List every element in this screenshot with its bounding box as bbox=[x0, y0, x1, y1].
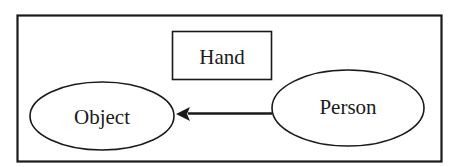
diagram-svg bbox=[0, 0, 456, 167]
object-label: Object bbox=[74, 107, 130, 128]
diagram-canvas: Hand Object Person bbox=[0, 0, 456, 167]
person-label: Person bbox=[319, 97, 376, 118]
arrowhead-icon bbox=[176, 107, 190, 121]
hand-label: Hand bbox=[199, 47, 245, 68]
